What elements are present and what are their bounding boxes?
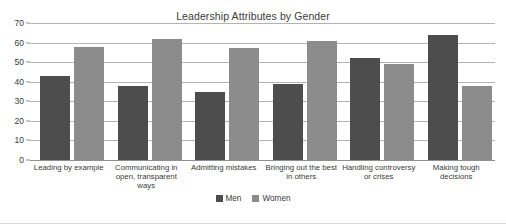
bar-women — [462, 86, 492, 160]
category-labels: Leading by exampleCommunicating in open,… — [30, 163, 495, 191]
y-axis-tick-label: 40 — [15, 77, 24, 87]
gridline — [30, 160, 495, 161]
y-axis-tick-label: 50 — [15, 57, 24, 67]
bar-men — [428, 35, 458, 160]
bar-group — [263, 23, 341, 160]
y-axis-tick-label: 30 — [15, 96, 24, 106]
category-label: Admitting mistakes — [185, 163, 263, 191]
plot-area: 010203040506070 — [30, 23, 495, 160]
bar-group — [418, 23, 496, 160]
category-label: Leading by example — [30, 163, 108, 191]
bar-chart: Leadership Attributes by Gender 01020304… — [0, 0, 506, 224]
bar-groups — [30, 23, 495, 160]
y-axis-tick-label: 10 — [15, 135, 24, 145]
bar-group — [30, 23, 108, 160]
category-label: Communicating in open, transparent ways — [108, 163, 186, 191]
bar-group — [185, 23, 263, 160]
legend-swatch-icon — [216, 195, 223, 202]
chart-legend: MenWomen — [0, 194, 506, 203]
bar-women — [229, 48, 259, 160]
bar-group — [340, 23, 418, 160]
legend-label: Women — [262, 194, 290, 203]
bar-women — [384, 64, 414, 160]
y-axis-tick-label: 0 — [19, 155, 24, 165]
bar-men — [195, 92, 225, 161]
chart-title: Leadership Attributes by Gender — [0, 10, 506, 22]
bar-group — [108, 23, 186, 160]
bar-men — [273, 84, 303, 160]
legend-item[interactable]: Women — [252, 194, 290, 203]
legend-label: Men — [226, 194, 242, 203]
bar-women — [152, 39, 182, 160]
category-label: Making tough decisions — [418, 163, 496, 191]
y-axis-tick-label: 20 — [15, 116, 24, 126]
legend-item[interactable]: Men — [216, 194, 242, 203]
legend-swatch-icon — [252, 195, 259, 202]
bar-women — [307, 41, 337, 160]
bar-men — [350, 58, 380, 160]
y-axis-tick-label: 60 — [15, 38, 24, 48]
bar-women — [74, 47, 104, 161]
category-label: Bringing out the best in others — [263, 163, 341, 191]
bar-men — [40, 76, 70, 160]
bar-men — [118, 86, 148, 160]
y-axis-tick-label: 70 — [15, 18, 24, 28]
category-label: Handling controversy or crises — [340, 163, 418, 191]
